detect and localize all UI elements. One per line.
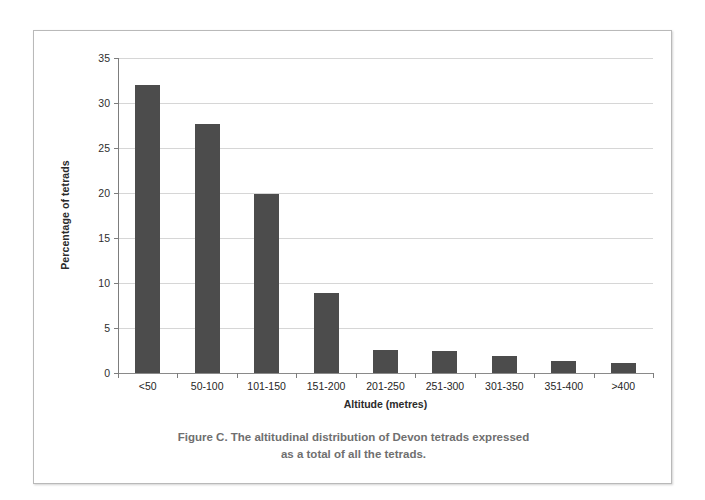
x-tick-label: 50-100 xyxy=(191,380,224,392)
x-tick-label: >400 xyxy=(611,380,635,392)
y-tick-label: 10 xyxy=(98,277,110,289)
x-axis-title: Altitude (metres) xyxy=(118,398,653,410)
x-tick-mark xyxy=(415,373,416,378)
bar xyxy=(432,351,457,374)
x-tick-mark xyxy=(594,373,595,378)
y-tick-label: 30 xyxy=(98,97,110,109)
y-tick-label: 0 xyxy=(104,367,110,379)
bar xyxy=(611,363,636,373)
figure-caption: Figure C. The altitudinal distribution o… xyxy=(74,429,633,463)
x-tick-label: 351-400 xyxy=(545,380,584,392)
caption-line-1: Figure C. The altitudinal distribution o… xyxy=(74,429,633,446)
y-tick-label: 25 xyxy=(98,142,110,154)
x-tick-mark xyxy=(177,373,178,378)
figure-frame: Percentage of tetrads 05101520253035 <50… xyxy=(33,30,672,484)
x-tick-mark xyxy=(296,373,297,378)
x-tick-label: 201-250 xyxy=(366,380,405,392)
x-tick-label: 101-150 xyxy=(247,380,286,392)
y-tick-label: 5 xyxy=(104,322,110,334)
x-tick-label: 251-300 xyxy=(426,380,465,392)
x-axis-ticks xyxy=(118,373,653,379)
x-tick-mark xyxy=(237,373,238,378)
bar-chart: Percentage of tetrads 05101520253035 <50… xyxy=(34,31,673,485)
x-tick-mark xyxy=(118,373,119,378)
bar xyxy=(254,194,279,373)
bar xyxy=(492,356,517,373)
x-tick-mark xyxy=(356,373,357,378)
bar xyxy=(314,293,339,373)
x-tick-mark xyxy=(534,373,535,378)
caption-line-2: as a total of all the tetrads. xyxy=(74,446,633,463)
x-tick-label: <50 xyxy=(139,380,157,392)
x-tick-mark xyxy=(475,373,476,378)
y-tick-label: 35 xyxy=(98,52,110,64)
bar xyxy=(135,85,160,373)
y-tick-label: 15 xyxy=(98,232,110,244)
bar xyxy=(551,361,576,373)
bar-series xyxy=(118,58,653,373)
y-axis-title: Percentage of tetrads xyxy=(59,135,71,295)
x-tick-label: 301-350 xyxy=(485,380,524,392)
y-tick-label: 20 xyxy=(98,187,110,199)
plot-area: 05101520253035 <5050-100101-150151-20020… xyxy=(118,58,653,373)
bar xyxy=(195,124,220,373)
x-tick-mark xyxy=(653,373,654,378)
bar xyxy=(373,350,398,373)
x-tick-label: 151-200 xyxy=(307,380,346,392)
